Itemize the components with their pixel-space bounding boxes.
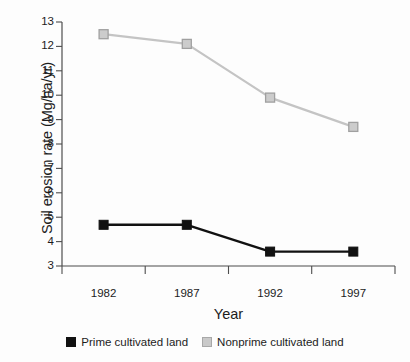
legend-label-nonprime: Nonprime cultivated land [217,336,344,348]
x-tick-label-1987: 1987 [157,287,217,299]
chart-figure: Soil erosion rate (Mg/ha/yr) 13 12 11 10… [0,0,410,362]
data-point-prime-1997 [349,247,358,256]
legend-entry-prime: Prime cultivated land [66,336,188,348]
x-tick-label-1982: 1982 [74,287,134,299]
series-line-prime [104,225,354,252]
data-point-prime-1992 [266,247,275,256]
legend-swatch-prime-icon [66,337,76,347]
legend-swatch-nonprime-icon [202,337,212,347]
series-nonprime-cultivated-land [99,30,358,132]
data-point-nonprime-1997 [349,122,358,131]
series-line-nonprime [104,34,354,127]
y-tick-marks [56,22,62,266]
data-point-nonprime-1987 [182,39,191,48]
data-point-nonprime-1982 [99,30,108,39]
data-point-nonprime-1992 [266,93,275,102]
x-tick-label-1997: 1997 [323,287,383,299]
x-axis-label: Year [62,306,395,322]
x-tick-label-1992: 1992 [240,287,300,299]
legend-entry-nonprime: Nonprime cultivated land [202,336,344,348]
series-prime-cultivated-land [99,220,358,256]
data-point-prime-1987 [182,220,191,229]
data-point-prime-1982 [99,220,108,229]
chart-legend: Prime cultivated land Nonprime cultivate… [0,336,410,348]
x-tick-marks [62,266,395,274]
legend-label-prime: Prime cultivated land [81,336,188,348]
